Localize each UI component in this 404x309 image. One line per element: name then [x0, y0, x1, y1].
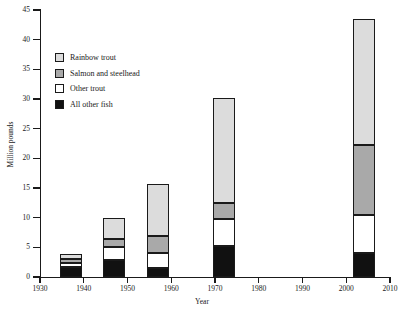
chart-title: [0, 0, 404, 2]
legend-item-label: Salmon and steelhead: [70, 69, 140, 78]
bar-segment-1972-other-trout[interactable]: [213, 219, 235, 246]
bar-segment-1972-salmon-and-steelhead[interactable]: [213, 203, 235, 219]
bar-1957[interactable]: [147, 184, 169, 277]
x-tick-2010: [389, 277, 390, 283]
bar-segment-2004-all-other-fish[interactable]: [353, 253, 375, 277]
legend-item-rainbow-trout[interactable]: Rainbow trout: [55, 50, 205, 66]
bar-segment-1937-rainbow-trout[interactable]: [60, 254, 82, 258]
bar-segment-1957-rainbow-trout[interactable]: [147, 184, 169, 236]
bar-segment-2004-rainbow-trout[interactable]: [353, 19, 375, 145]
legend-item-label: Rainbow trout: [70, 53, 116, 62]
x-tick-label-1970: 1970: [195, 285, 235, 293]
y-tick-label-40: 40: [0, 36, 30, 44]
bar-1972[interactable]: [213, 98, 235, 277]
y-tick-label-0: 0: [0, 273, 30, 281]
bar-segment-1972-all-other-fish[interactable]: [213, 246, 235, 277]
y-tick-15: [33, 187, 40, 188]
x-tick-1930: [39, 277, 40, 283]
bar-segment-1957-salmon-and-steelhead[interactable]: [147, 236, 169, 253]
bar-1947[interactable]: [103, 218, 125, 277]
bar-segment-1937-salmon-and-steelhead[interactable]: [60, 259, 82, 264]
bar-segment-1937-other-trout[interactable]: [60, 263, 82, 267]
y-tick-label-5: 5: [0, 243, 30, 251]
y-tick-10: [33, 217, 40, 218]
x-tick-label-2010: 2010: [370, 285, 404, 293]
x-tick-1990: [302, 277, 303, 283]
chart-legend: Rainbow troutSalmon and steelheadOther t…: [55, 50, 205, 112]
legend-item-label: Other trout: [70, 84, 105, 93]
bar-segment-1947-other-trout[interactable]: [103, 247, 125, 260]
x-tick-label-2000: 2000: [326, 285, 366, 293]
x-tick-1940: [83, 277, 84, 283]
y-tick-20: [33, 158, 40, 159]
x-tick-2000: [346, 277, 347, 283]
legend-item-salmon-and-steelhead[interactable]: Salmon and steelhead: [55, 66, 205, 82]
y-tick-label-20: 20: [0, 154, 30, 162]
bar-2004[interactable]: [353, 19, 375, 277]
x-tick-label-1940: 1940: [64, 285, 104, 293]
y-tick-5: [33, 247, 40, 248]
y-tick-label-25: 25: [0, 125, 30, 133]
y-tick-45: [33, 9, 40, 10]
bar-1937[interactable]: [60, 254, 82, 277]
x-tick-label-1960: 1960: [151, 285, 191, 293]
legend-swatch-icon: [55, 53, 64, 62]
y-tick-label-30: 30: [0, 95, 30, 103]
x-tick-label-1950: 1950: [108, 285, 148, 293]
x-tick-1980: [258, 277, 259, 283]
x-tick-1950: [127, 277, 128, 283]
y-tick-label-10: 10: [0, 214, 30, 222]
legend-item-label: All other fish: [70, 100, 113, 109]
chart-figure: 051015202530354045 193019401950196019701…: [0, 0, 404, 309]
y-tick-30: [33, 98, 40, 99]
y-tick-35: [33, 69, 40, 70]
legend-swatch-icon: [55, 100, 64, 109]
bar-segment-1957-other-trout[interactable]: [147, 253, 169, 268]
x-tick-1970: [214, 277, 215, 283]
y-tick-25: [33, 128, 40, 129]
y-tick-label-45: 45: [0, 6, 30, 14]
y-axis-title: Million pounds: [6, 95, 15, 195]
legend-item-all-other-fish[interactable]: All other fish: [55, 97, 205, 113]
x-tick-label-1990: 1990: [283, 285, 323, 293]
x-tick-label-1980: 1980: [239, 285, 279, 293]
legend-item-other-trout[interactable]: Other trout: [55, 81, 205, 97]
bar-segment-1947-rainbow-trout[interactable]: [103, 218, 125, 239]
legend-swatch-icon: [55, 69, 64, 78]
x-tick-label-1930: 1930: [20, 285, 60, 293]
bar-segment-1947-all-other-fish[interactable]: [103, 260, 125, 277]
x-tick-1960: [171, 277, 172, 283]
y-tick-40: [33, 39, 40, 40]
bar-segment-2004-salmon-and-steelhead[interactable]: [353, 145, 375, 215]
bar-segment-1937-all-other-fish[interactable]: [60, 267, 82, 277]
bar-segment-1972-rainbow-trout[interactable]: [213, 98, 235, 202]
y-tick-label-15: 15: [0, 184, 30, 192]
bar-segment-2004-other-trout[interactable]: [353, 215, 375, 253]
bar-segment-1957-all-other-fish[interactable]: [147, 268, 169, 277]
legend-swatch-icon: [55, 84, 64, 93]
x-axis-title: Year: [0, 297, 404, 306]
bar-segment-1947-salmon-and-steelhead[interactable]: [103, 239, 125, 247]
y-tick-label-35: 35: [0, 65, 30, 73]
